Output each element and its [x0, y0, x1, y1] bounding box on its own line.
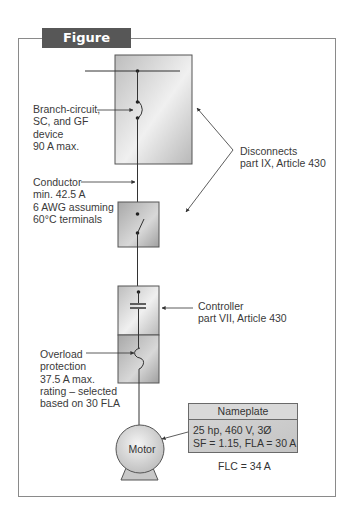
- disconnect-arrow-lower: [186, 150, 233, 212]
- nameplate-arrow: [162, 432, 188, 439]
- nameplate-line-1: 25 hp, 460 V, 3Ø: [189, 424, 297, 437]
- disconnect-enclosure: [118, 202, 159, 247]
- branch-circuit-label: Branch-circuit, SC, and GF device 90 A m…: [33, 103, 100, 152]
- nameplate-box: Nameplate 25 hp, 460 V, 3Ø SF = 1.15, FL…: [188, 403, 298, 453]
- disconnects-label: Disconnects part IX, Article 430: [240, 145, 326, 170]
- wiring-diagram: [0, 0, 354, 523]
- conductor-label: Conductor min. 42.5 A 6 AWG assuming 60°…: [33, 176, 114, 225]
- flc-label: FLC = 34 A: [218, 460, 271, 472]
- nameplate-header: Nameplate: [189, 404, 297, 420]
- disconnect-arrow-upper: [197, 108, 233, 150]
- motor-label: Motor: [117, 443, 167, 455]
- controller-label: Controller part VII, Article 430: [198, 300, 287, 325]
- nameplate-line-2: SF = 1.15, FLA = 30 A: [189, 437, 297, 450]
- overload-label: Overload protection 37.5 A max. rating –…: [40, 348, 120, 409]
